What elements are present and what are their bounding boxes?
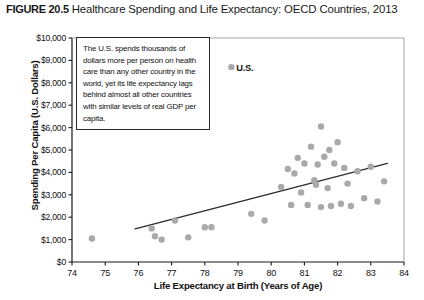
y-tick-label: $5,000 (41, 145, 67, 155)
y-tick-label: $7,000 (41, 100, 67, 110)
data-point (331, 160, 337, 166)
data-point (318, 123, 324, 129)
x-tick-label: 77 (167, 268, 177, 278)
x-tick-label: 82 (333, 268, 343, 278)
data-point (354, 168, 360, 174)
x-axis-title: Life Expectancy at Birth (Years of Age) (72, 280, 404, 291)
x-tick-label: 75 (100, 268, 110, 278)
data-point (208, 224, 214, 230)
figure-caption: FIGURE 20.5 Healthcare Spending and Life… (6, 3, 422, 21)
data-point (348, 203, 354, 209)
y-tick-label: $8,000 (41, 78, 67, 88)
data-point (291, 170, 297, 176)
data-point (321, 154, 327, 160)
x-tick-label: 84 (399, 268, 409, 278)
data-point (381, 178, 387, 184)
data-point (338, 201, 344, 207)
y-tick-label: $0 (57, 257, 67, 267)
data-point (344, 180, 350, 186)
x-tick-label: 79 (233, 268, 243, 278)
data-point (313, 182, 319, 188)
y-tick-label: $1,000 (41, 235, 67, 245)
data-point (278, 184, 284, 190)
scatter-chart: $0$1,000$2,000$3,000$4,000$5,000$6,000$7… (0, 22, 424, 300)
data-point (288, 202, 294, 208)
data-point-highlighted (228, 64, 234, 70)
data-point (295, 155, 301, 161)
data-point (368, 164, 374, 170)
data-point (152, 233, 158, 239)
data-point (334, 139, 340, 145)
data-point (301, 160, 307, 166)
y-tick-label: $2,000 (41, 212, 67, 222)
x-tick-label: 83 (366, 268, 376, 278)
data-point (318, 204, 324, 210)
data-point (148, 225, 154, 231)
annotation-textbox: The U.S. spends thousands of dollars mor… (76, 37, 210, 130)
data-point (185, 234, 191, 240)
data-point (324, 185, 330, 191)
data-point (314, 161, 320, 167)
y-tick-label: $10,000 (36, 33, 66, 43)
plot-svg: $0$1,000$2,000$3,000$4,000$5,000$6,000$7… (0, 22, 424, 300)
data-point (285, 166, 291, 172)
data-point (328, 203, 334, 209)
us-point-label: U.S. (236, 63, 253, 73)
x-tick-label: 76 (134, 268, 144, 278)
data-point (361, 195, 367, 201)
data-point (261, 217, 267, 223)
x-tick-label: 80 (266, 268, 276, 278)
data-point (308, 143, 314, 149)
x-tick-label: 81 (300, 268, 310, 278)
y-tick-label: $3,000 (41, 190, 67, 200)
data-point (326, 147, 332, 153)
x-tick-label: 74 (67, 268, 77, 278)
y-tick-label: $6,000 (41, 123, 67, 133)
data-point (305, 202, 311, 208)
data-point (248, 211, 254, 217)
y-tick-label: $4,000 (41, 167, 67, 177)
x-tick-label: 78 (200, 268, 210, 278)
data-point (298, 189, 304, 195)
y-axis-title: Spending Per Capita (U.S. Dollars) (29, 38, 40, 234)
figure-number: FIGURE 20.5 (6, 3, 69, 15)
data-point (202, 224, 208, 230)
page-title: Healthcare Spending and Life Expectancy:… (72, 3, 398, 15)
data-point (172, 217, 178, 223)
y-tick-label: $9,000 (41, 55, 67, 65)
data-point (374, 198, 380, 204)
data-point (158, 236, 164, 242)
data-point (89, 235, 95, 241)
data-point (341, 165, 347, 171)
